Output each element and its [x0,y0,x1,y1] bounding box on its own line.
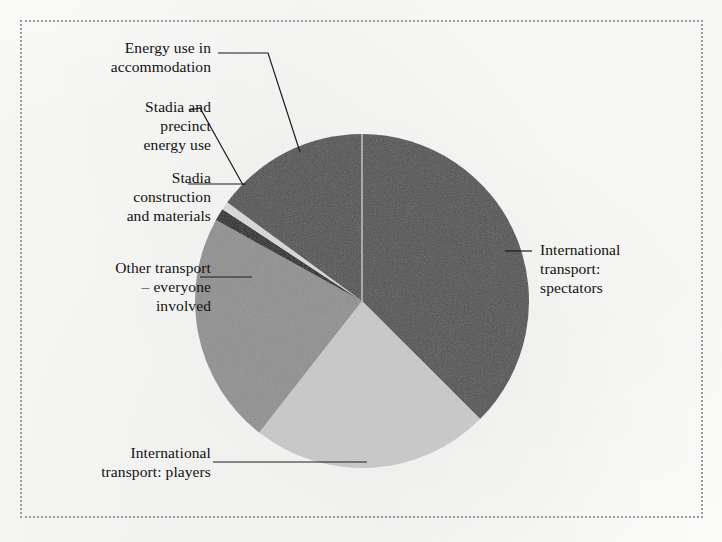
pie-label-stadia-and-precinct-energy-use: Stadia and precinct energy use [52,97,211,154]
pie-label-energy-use-in-accommodation: Energy use in accommodation [36,38,211,76]
page-background: Energy use in accommodation Stadia and p… [0,0,722,542]
pie-label-stadia-construction-and-materials: Stadia construction and materials [36,168,211,225]
pie-chart: Energy use in accommodation Stadia and p… [0,0,722,542]
pie-label-international-transport-spectators: International transport: spectators [540,240,705,297]
pie-label-international-transport-players: International transport: players [30,443,211,481]
leader-line-energy-use-in-accommodation [218,53,300,152]
pie-label-other-transport-everyone-involved: Other transport – everyone involved [22,258,211,315]
